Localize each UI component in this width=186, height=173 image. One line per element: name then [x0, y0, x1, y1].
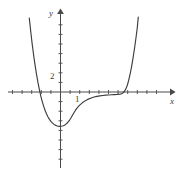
axes-group [8, 8, 176, 168]
y-axis-arrow [57, 8, 64, 14]
x-axis-arrow [170, 89, 176, 96]
function-curve [29, 17, 138, 126]
y-axis-label: y [49, 9, 53, 18]
y-tick-label-2: 2 [50, 72, 55, 81]
plot-canvas [0, 0, 186, 173]
graph-figure: y x 2 1 [0, 0, 186, 173]
x-tick-label-1: 1 [75, 95, 80, 104]
x-axis-label: x [170, 97, 174, 106]
